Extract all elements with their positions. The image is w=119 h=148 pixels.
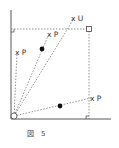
caption-number: 5 [41, 130, 45, 138]
ray-to-p-right [14, 98, 91, 116]
dot-lower [58, 104, 63, 109]
label-p-right: x P [90, 94, 102, 103]
caption-symbol: 図 [27, 130, 34, 138]
label-p-left: x P [15, 48, 27, 57]
label-p-upper: x P [47, 30, 59, 39]
dot-upper [40, 47, 45, 52]
figure-canvas: x U x P x P x P 図 5 [0, 0, 119, 148]
ray-to-u [14, 20, 73, 116]
corner-square-icon [87, 27, 92, 32]
origin-circle-icon [11, 113, 17, 119]
label-u: x U [71, 14, 83, 23]
ray-to-p-left [14, 54, 17, 116]
